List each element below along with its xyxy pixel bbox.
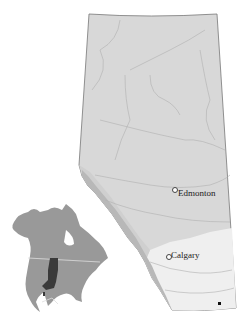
edmonton-label: Edmonton (178, 189, 216, 198)
calgary-label: Calgary (171, 251, 200, 260)
alberta-province (79, 14, 236, 311)
map-canvas (0, 0, 240, 323)
location-point-icon (218, 302, 221, 305)
north-america-inset (12, 204, 108, 312)
